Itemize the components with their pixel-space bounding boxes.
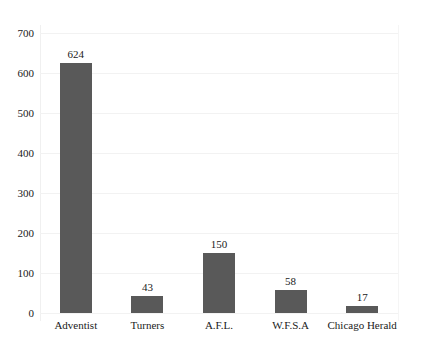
bar [346, 306, 378, 313]
y-tick-label: 100 [0, 268, 34, 279]
y-tick-label: 0 [0, 308, 34, 319]
bar [131, 296, 163, 313]
y-tick-label: 700 [0, 28, 34, 39]
plot-right-border [398, 25, 399, 321]
bar [203, 253, 235, 313]
y-tick-label: 500 [0, 108, 34, 119]
bar-chart: 0100200300400500600700 624431505817 Adve… [0, 0, 424, 355]
x-category-label: Turners [112, 320, 184, 331]
bar [275, 290, 307, 313]
bar-value-label: 43 [117, 282, 177, 293]
plot-area [40, 33, 398, 313]
y-tick-label: 300 [0, 188, 34, 199]
x-category-label: Adventist [40, 320, 112, 331]
y-tick-label: 600 [0, 68, 34, 79]
y-tick-label: 200 [0, 228, 34, 239]
bar-value-label: 150 [189, 239, 249, 250]
gridline [40, 313, 398, 314]
bar-value-label: 624 [46, 49, 106, 60]
y-tick-label: 400 [0, 148, 34, 159]
bar-value-label: 17 [332, 292, 392, 303]
bar [60, 63, 92, 313]
x-category-label: A.F.L. [183, 320, 255, 331]
bar-value-label: 58 [261, 276, 321, 287]
x-category-label: W.F.S.A [255, 320, 327, 331]
x-category-label: Chicago Herald [326, 320, 398, 331]
